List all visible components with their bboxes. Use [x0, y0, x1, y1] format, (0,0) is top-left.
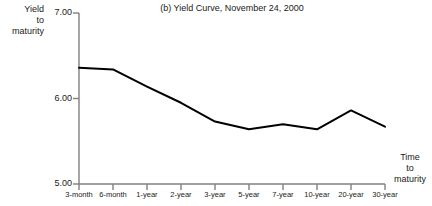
y-tick-label: 6.00 [38, 93, 72, 103]
yield-curve-line [79, 68, 385, 130]
y-tick-label: 5.00 [38, 178, 72, 188]
y-tick-marks [73, 13, 79, 184]
plot-area: 7.006.005.00 3-month6-month1-year2-year3… [0, 0, 432, 206]
x-tick-label: 30-year [365, 190, 405, 199]
chart-figure: Yield to maturity (b) Yield Curve, Novem… [0, 0, 432, 206]
chart-svg [0, 0, 432, 206]
y-tick-label: 7.00 [38, 7, 72, 17]
axes [79, 13, 385, 184]
